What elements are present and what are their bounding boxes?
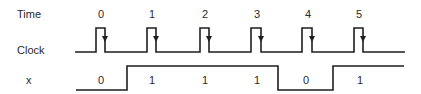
down-arrow-icon [102, 36, 108, 42]
down-arrow-icon [153, 36, 159, 42]
time-tick: 0 [98, 8, 104, 20]
time-tick: 3 [254, 8, 260, 20]
down-arrow-icon [360, 36, 366, 42]
falling-edge-arrows [102, 36, 366, 42]
x-value: 1 [357, 74, 363, 86]
down-arrow-icon [309, 36, 315, 42]
down-arrow-icon [258, 36, 264, 42]
time-tick: 1 [149, 8, 155, 20]
x-value: 1 [202, 74, 208, 86]
x-row-label: x [26, 74, 32, 86]
x-value: 0 [303, 74, 309, 86]
down-arrow-icon [206, 36, 212, 42]
x-values: 0 1 1 1 0 1 [98, 74, 363, 86]
x-value: 1 [254, 74, 260, 86]
clock-row-label: Clock [17, 44, 45, 56]
time-tick: 4 [305, 8, 311, 20]
time-tick: 5 [356, 8, 362, 20]
x-value: 0 [98, 74, 104, 86]
x-waveform [76, 66, 404, 90]
clock-waveform [75, 28, 405, 52]
time-ticks: 0 1 2 3 4 5 [98, 8, 362, 20]
x-value: 1 [149, 74, 155, 86]
timing-diagram: Time Clock x 0 1 2 3 4 5 0 1 1 1 0 1 [0, 0, 421, 94]
time-row-label: Time [17, 8, 41, 20]
time-tick: 2 [202, 8, 208, 20]
